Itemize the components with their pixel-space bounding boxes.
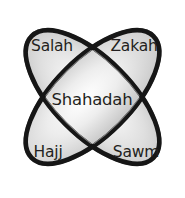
label-sawm: Sawm (113, 145, 159, 161)
label-shahadah: Shahadah (51, 92, 132, 109)
label-salah: Salah (31, 39, 73, 55)
label-zakah: Zakah (110, 39, 157, 55)
five-pillars-diagram: Salah Zakah Shahadah Hajj Sawm (0, 0, 185, 198)
label-hajj: Hajj (34, 145, 63, 161)
